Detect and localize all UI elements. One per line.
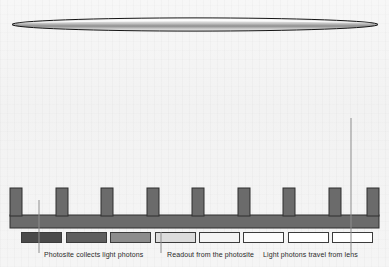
legend-light-travel: Light photons travel from lens [263, 250, 358, 260]
diagram-canvas: Photosite collects light photons Readout… [0, 0, 389, 267]
legend-photosite-collects: Photosite collects light photons [44, 250, 143, 260]
legend-readout: Readout from the photosite [167, 250, 254, 260]
leader-lines [0, 0, 389, 267]
legend: Photosite collects light photons Readout… [0, 246, 389, 267]
